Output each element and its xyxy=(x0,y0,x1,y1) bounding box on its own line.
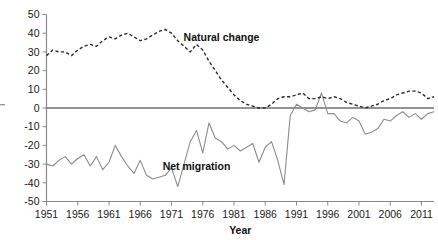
x-tick-label: 1971 xyxy=(160,208,184,220)
chart-plot-area: 50403020100-10-20-30-40-50 1951195619611… xyxy=(0,0,438,240)
y-tick-label: 40 xyxy=(28,27,40,39)
y-tick-label: -20 xyxy=(24,139,39,151)
y-tick-label: -10 xyxy=(24,120,39,132)
x-tick-label: 1981 xyxy=(222,208,246,220)
y-tick-label: -40 xyxy=(24,177,39,189)
x-tick-label: 2001 xyxy=(347,208,371,220)
y-tick-label: -30 xyxy=(24,158,39,170)
x-tick-label: 1976 xyxy=(191,208,215,220)
x-tick-label: 1986 xyxy=(254,208,278,220)
x-axis-tick-labels: 1951195619611966197119761981198619911996… xyxy=(35,208,433,220)
y-tick-label: 0 xyxy=(34,102,40,114)
series-annotation-natural-change: Natural change xyxy=(184,31,260,43)
x-axis-title: Year xyxy=(229,224,251,236)
x-tick-label: 1961 xyxy=(97,208,121,220)
cropped-ylabel-mark xyxy=(0,104,5,105)
x-tick-label: 1956 xyxy=(66,208,90,220)
x-tick-label: 2011 xyxy=(410,208,433,220)
population-change-chart: 50403020100-10-20-30-40-50 1951195619611… xyxy=(0,0,438,240)
y-tick-label: 30 xyxy=(28,46,40,58)
x-tick-label: 1966 xyxy=(129,208,153,220)
y-tick-label: -50 xyxy=(24,195,39,207)
y-tick-label: 50 xyxy=(28,8,40,20)
y-axis-tick-labels: 50403020100-10-20-30-40-50 xyxy=(24,8,39,207)
x-tick-label: 1996 xyxy=(316,208,340,220)
series-annotation-net-migration: Net migration xyxy=(163,160,231,172)
x-tick-label: 2006 xyxy=(379,208,403,220)
x-tick-label: 1991 xyxy=(285,208,309,220)
x-tick-label: 1951 xyxy=(35,208,59,220)
y-tick-label: 20 xyxy=(28,64,40,76)
series-line-net-migration xyxy=(47,93,435,186)
y-tick-label: 10 xyxy=(28,83,40,95)
x-axis-tick-marks xyxy=(47,202,422,206)
